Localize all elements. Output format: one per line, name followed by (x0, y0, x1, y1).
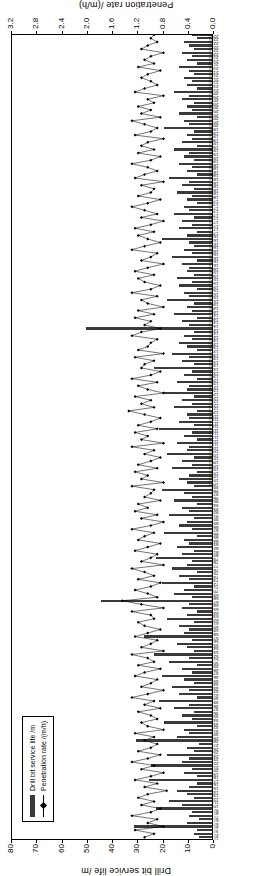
y-axis-left-title: Drill bit service life /m (81, 866, 171, 876)
y-tick-label-right: 0.0 (208, 7, 217, 29)
y-tick-label-right: 2.4 (57, 7, 66, 29)
y-tick-label-right: 0.8 (158, 7, 167, 29)
y-tick-label-left: 10 (183, 844, 192, 865)
y-tick-label-left: 80 (6, 844, 15, 865)
legend-label-service-life: Drill bit service life /m (27, 725, 38, 791)
y-tick-label-right: 2.8 (31, 7, 40, 29)
y-tick-label-left: 40 (107, 844, 116, 865)
y-tick-label-right: 3.2 (6, 7, 15, 29)
line-marker-swatch-icon (41, 795, 46, 817)
y-tick-label-right: 1.6 (107, 7, 116, 29)
legend: Drill bit service life /m Penetration ra… (22, 716, 54, 822)
y-tick-label-left: 20 (158, 844, 167, 865)
y-tick-label-right: 1.2 (132, 7, 141, 29)
bar-swatch-icon (30, 795, 35, 817)
y-tick-label-left: 50 (82, 844, 91, 865)
y-tick-label-left: 60 (57, 844, 66, 865)
legend-item-penetration-rate: Penetration rate /(m/h) (38, 721, 49, 817)
y-tick-label-left: 70 (31, 844, 40, 865)
y-tick-label-right: 0.4 (183, 7, 192, 29)
y-tick-label-right: 2.0 (82, 7, 91, 29)
y-tick-label-left: 0 (208, 844, 217, 865)
legend-item-service-life: Drill bit service life /m (27, 721, 38, 817)
legend-label-penetration-rate: Penetration rate /(m/h) (38, 721, 49, 791)
y-tick-label-left: 30 (132, 844, 141, 865)
x-tick-label: 225# (209, 33, 219, 38)
